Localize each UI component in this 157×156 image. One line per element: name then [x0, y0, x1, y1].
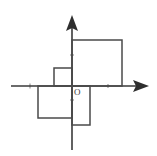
shape-group [38, 40, 122, 125]
tick-group [30, 55, 108, 100]
small-square-quadrant-2 [54, 68, 72, 86]
large-square-quadrant-1 [72, 40, 122, 86]
origin-label: O [74, 88, 81, 97]
coordinate-diagram-canvas [0, 0, 157, 156]
medium-square-quadrant-3 [38, 86, 72, 118]
coordinate-figure: O [0, 0, 157, 156]
